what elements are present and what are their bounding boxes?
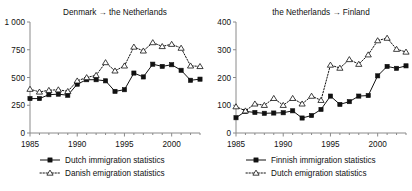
data-point bbox=[179, 68, 183, 72]
data-point bbox=[37, 96, 41, 100]
data-point bbox=[271, 95, 277, 100]
data-point bbox=[170, 63, 174, 67]
data-point bbox=[198, 77, 202, 81]
y-tick-label: 200 bbox=[217, 74, 231, 83]
data-point bbox=[169, 41, 175, 46]
y-tick-label: 500 bbox=[11, 74, 25, 83]
data-point bbox=[160, 64, 164, 68]
data-point bbox=[346, 57, 352, 62]
data-point bbox=[366, 93, 370, 97]
series-2 bbox=[27, 40, 203, 94]
chart-panel-netherlands-finland: the Netherlands → Finland010020030040019… bbox=[206, 0, 412, 191]
data-point bbox=[338, 102, 342, 106]
data-point bbox=[309, 113, 313, 117]
data-point bbox=[102, 60, 108, 65]
axis-lines bbox=[236, 22, 406, 133]
chart-svg-right: the Netherlands → Finland010020030040019… bbox=[206, 0, 412, 191]
y-tick-label: 100 bbox=[217, 101, 231, 110]
y-tick-label: 750 bbox=[11, 46, 25, 55]
figure-container: Denmark → the Netherlands02505007501 000… bbox=[0, 0, 412, 191]
x-tick-label: 2000 bbox=[369, 140, 388, 149]
x-tick-label: 2000 bbox=[163, 140, 182, 149]
data-point bbox=[132, 71, 136, 75]
data-point bbox=[376, 74, 380, 78]
data-point bbox=[394, 66, 398, 70]
legend-label: Dutch emigration statistics bbox=[271, 169, 367, 178]
y-tick-label: 0 bbox=[226, 129, 231, 138]
data-point bbox=[308, 93, 314, 98]
data-point bbox=[56, 92, 60, 96]
legend-label: Finnish immigration statistics bbox=[271, 156, 376, 165]
data-point bbox=[150, 40, 156, 45]
y-tick-label: 1 000 bbox=[5, 18, 26, 27]
y-tick-label: 250 bbox=[11, 101, 25, 110]
chart-axes: 02505007501 0001985199019952000 bbox=[5, 18, 201, 149]
axis-lines bbox=[30, 22, 200, 133]
x-tick-label: 1995 bbox=[115, 140, 134, 149]
data-point bbox=[252, 101, 258, 106]
data-point bbox=[281, 111, 285, 115]
legend-marker bbox=[48, 158, 52, 162]
data-point bbox=[291, 109, 295, 113]
y-tick-label: 0 bbox=[20, 129, 25, 138]
data-point bbox=[234, 116, 238, 120]
legend-marker bbox=[254, 158, 258, 162]
series-1 bbox=[234, 64, 408, 120]
chart-title: the Netherlands → Finland bbox=[272, 8, 370, 17]
data-point bbox=[131, 44, 137, 49]
data-point bbox=[233, 104, 239, 109]
data-point bbox=[122, 88, 126, 92]
data-point bbox=[357, 94, 361, 98]
data-point bbox=[319, 107, 323, 111]
x-tick-label: 1985 bbox=[227, 140, 246, 149]
data-point bbox=[384, 35, 390, 40]
data-point bbox=[188, 78, 192, 82]
x-tick-label: 1985 bbox=[21, 140, 40, 149]
data-point bbox=[347, 100, 351, 104]
series-2 bbox=[233, 35, 409, 113]
data-point bbox=[103, 79, 107, 83]
data-point bbox=[404, 64, 408, 68]
data-point bbox=[121, 63, 127, 68]
chart-svg-left: Denmark → the Netherlands02505007501 000… bbox=[0, 0, 206, 191]
data-point bbox=[365, 52, 371, 57]
data-point bbox=[272, 111, 276, 115]
data-point bbox=[327, 62, 333, 67]
data-point bbox=[300, 116, 304, 120]
data-point bbox=[328, 94, 332, 98]
x-tick-label: 1995 bbox=[321, 140, 340, 149]
data-point bbox=[94, 78, 98, 82]
x-tick-label: 1990 bbox=[274, 140, 293, 149]
data-point bbox=[262, 111, 266, 115]
data-point bbox=[141, 75, 145, 79]
data-point bbox=[151, 62, 155, 66]
data-point bbox=[27, 86, 33, 91]
chart-title: Denmark → the Netherlands bbox=[63, 8, 167, 17]
data-point bbox=[253, 110, 257, 114]
y-tick-label: 300 bbox=[217, 46, 231, 55]
chart-panel-denmark-netherlands: Denmark → the Netherlands02505007501 000… bbox=[0, 0, 206, 191]
data-point bbox=[385, 64, 389, 68]
legend-label: Danish emigration statistics bbox=[65, 169, 165, 178]
data-point bbox=[290, 95, 296, 100]
chart-legend: Dutch immigration statisticsDanish emigr… bbox=[40, 156, 165, 178]
x-tick-label: 1990 bbox=[68, 140, 87, 149]
chart-legend: Finnish immigration statisticsDutch emig… bbox=[246, 156, 376, 178]
legend-label: Dutch immigration statistics bbox=[65, 156, 165, 165]
data-point bbox=[47, 93, 51, 97]
data-point bbox=[356, 61, 362, 66]
data-point bbox=[113, 89, 117, 93]
y-tick-label: 400 bbox=[217, 18, 231, 27]
data-point bbox=[55, 87, 61, 92]
data-point bbox=[318, 97, 324, 102]
data-point bbox=[28, 96, 32, 100]
